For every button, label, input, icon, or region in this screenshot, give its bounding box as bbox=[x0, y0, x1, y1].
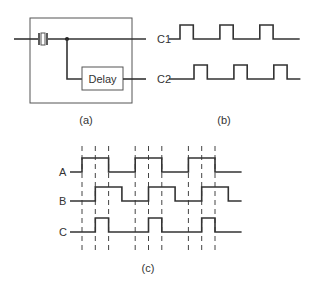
signal-b-label: B bbox=[59, 195, 66, 207]
c1-label: C1 bbox=[157, 33, 171, 45]
figure: Delay (a) C1 C2 (b) A B C (c) bbox=[0, 0, 312, 289]
signal-a-label: A bbox=[59, 166, 67, 178]
signal-c-label: C bbox=[59, 226, 67, 238]
caption-a: (a) bbox=[79, 114, 92, 126]
caption-b: (b) bbox=[217, 114, 230, 126]
clock-waveforms: C1 C2 (b) bbox=[157, 25, 300, 126]
signal-b-waveform bbox=[70, 187, 242, 201]
delay-label: Delay bbox=[88, 73, 117, 85]
delay-input-wire bbox=[67, 39, 82, 79]
caption-c: (c) bbox=[142, 262, 155, 274]
c1-waveform bbox=[169, 25, 300, 39]
circuit-diagram: Delay (a) bbox=[14, 18, 146, 126]
crystal-icon bbox=[39, 33, 47, 45]
signal-c-waveform bbox=[70, 218, 242, 232]
timing-diagram: A B C (c) bbox=[59, 146, 242, 274]
c2-waveform bbox=[169, 65, 300, 79]
c2-label: C2 bbox=[157, 73, 171, 85]
